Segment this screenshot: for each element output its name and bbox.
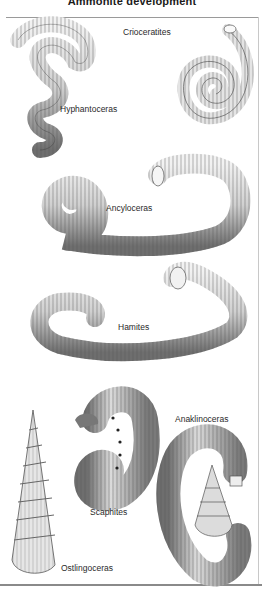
label-hamites: Hamites bbox=[118, 322, 149, 332]
anaklinoceras-illustration bbox=[168, 436, 242, 574]
label-anaklinoceras: Anaklinoceras bbox=[175, 414, 228, 424]
label-crioceratites: Crioceratites bbox=[123, 27, 171, 37]
hyphantoceras-illustration bbox=[18, 24, 88, 150]
hamites-illustration bbox=[39, 267, 238, 352]
label-ostlingoceras: Ostlingoceras bbox=[61, 563, 113, 573]
label-hyphantoceras: Hyphantoceras bbox=[60, 104, 117, 114]
scaphites-illustration bbox=[75, 399, 147, 498]
label-ancyloceras: Ancyloceras bbox=[106, 203, 152, 213]
crioceratites-illustration bbox=[183, 25, 247, 118]
ostlingoceras-illustration bbox=[12, 410, 55, 573]
illustration-plate bbox=[0, 0, 264, 591]
label-scaphites: Scaphites bbox=[90, 507, 127, 517]
